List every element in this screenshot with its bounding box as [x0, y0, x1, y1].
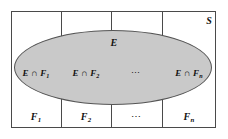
- intersection-cell-3: ⋯: [111, 66, 162, 80]
- partition-block-2: F2: [61, 110, 111, 124]
- partition-ellipsis-icon: ⋯: [131, 111, 143, 122]
- intersection-row: E ∩ F1 E ∩ F2 ⋯ E ∩ Fn: [11, 66, 216, 80]
- intersection-cell-2-subscript: 2: [96, 73, 99, 79]
- partition-block-1-label: F: [31, 111, 38, 122]
- intersection-cell-2: E ∩ F2: [61, 66, 111, 80]
- event-label: E: [0, 38, 228, 48]
- intersection-cell-1: E ∩ F1: [11, 66, 61, 80]
- partition-block-2-subscript: 2: [88, 116, 92, 123]
- intersection-cell-1-subscript: 1: [46, 73, 49, 79]
- partition-block-4-subscript: n: [190, 116, 194, 123]
- partition-block-3: ⋯: [111, 110, 162, 124]
- partition-block-row: F1 F2 ⋯ Fn: [11, 110, 216, 124]
- partition-diagram: S E E ∩ F1 E ∩ F2 ⋯ E ∩ Fn F1 F2 ⋯ Fn: [0, 0, 228, 139]
- intersection-cell-1-label: E ∩ F: [22, 68, 46, 78]
- universe-label: S: [206, 16, 212, 26]
- intersection-cell-2-label: E ∩ F: [72, 68, 96, 78]
- intersection-ellipsis-icon: ⋯: [131, 68, 142, 78]
- intersection-cell-4-subscript: n: [199, 73, 203, 79]
- partition-block-1: F1: [11, 110, 61, 124]
- intersection-cell-4: E ∩ Fn: [162, 66, 216, 80]
- partition-block-1-subscript: 1: [38, 116, 42, 123]
- partition-block-4: Fn: [162, 110, 216, 124]
- partition-block-2-label: F: [81, 111, 88, 122]
- intersection-cell-4-label: E ∩ F: [175, 68, 199, 78]
